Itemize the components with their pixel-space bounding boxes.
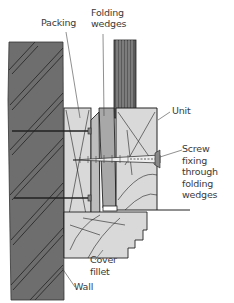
glazing-bars bbox=[114, 40, 136, 118]
label-screw-fixing: Screw fixing through folding wedges bbox=[182, 143, 218, 201]
label-wall: Wall bbox=[74, 281, 93, 293]
label-cover-fillet: Cover fillet bbox=[90, 254, 117, 277]
cover-fillet bbox=[64, 212, 147, 258]
label-folding-wedges: Folding wedges bbox=[91, 8, 126, 29]
wall-section bbox=[8, 42, 64, 300]
label-unit: Unit bbox=[172, 105, 191, 117]
label-packing: Packing bbox=[41, 17, 76, 29]
